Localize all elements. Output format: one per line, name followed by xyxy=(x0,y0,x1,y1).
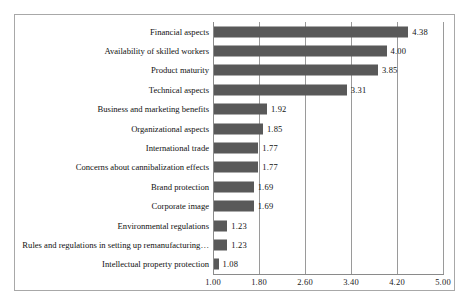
category-label: Environmental regulations xyxy=(118,221,209,231)
category-label: Business and marketing benefits xyxy=(98,104,209,114)
category-label: Corporate image xyxy=(151,201,209,211)
bar-row: International trade1.77 xyxy=(213,138,443,157)
category-label: Technical aspects xyxy=(149,85,209,95)
x-axis-line xyxy=(213,274,444,275)
bar-row: Availability of skilled workers4.00 xyxy=(213,41,443,60)
bar-row: Business and marketing benefits1.92 xyxy=(213,100,443,119)
bar xyxy=(214,84,347,95)
x-tick-label: 3.40 xyxy=(343,277,359,287)
bar-row: Product maturity3.85 xyxy=(213,61,443,80)
x-tick-label: 5.00 xyxy=(435,277,451,287)
plot-area: Financial aspects4.38Availability of ski… xyxy=(213,22,443,274)
x-tick-label: 1.00 xyxy=(205,277,221,287)
category-label: Concerns about cannibalization effects xyxy=(76,162,209,172)
gridline xyxy=(443,22,444,274)
bar-value-label: 4.00 xyxy=(391,46,407,56)
bar-value-label: 1.69 xyxy=(258,201,274,211)
bar-row: Rules and regulations in setting up rema… xyxy=(213,235,443,254)
category-label: Brand protection xyxy=(151,182,209,192)
category-label: Rules and regulations in setting up rema… xyxy=(22,240,209,250)
bar-value-label: 3.31 xyxy=(351,85,367,95)
bar xyxy=(214,201,254,212)
bar-row: Corporate image1.69 xyxy=(213,196,443,215)
x-tick-label: 1.80 xyxy=(251,277,267,287)
category-label: Availability of skilled workers xyxy=(104,46,209,56)
bar xyxy=(214,181,254,192)
category-label: Product maturity xyxy=(151,65,209,75)
bar-value-label: 1.08 xyxy=(223,259,239,269)
bar xyxy=(214,104,267,115)
bar-row: Technical aspects3.31 xyxy=(213,80,443,99)
bar-value-label: 1.69 xyxy=(258,182,274,192)
bar-value-label: 1.23 xyxy=(231,221,247,231)
bar-value-label: 1.92 xyxy=(271,104,287,114)
bar-row: Organizational aspects1.85 xyxy=(213,119,443,138)
category-label: International trade xyxy=(146,143,209,153)
bar xyxy=(214,259,219,270)
bar-row: Environmental regulations1.23 xyxy=(213,216,443,235)
x-tick-label: 4.20 xyxy=(389,277,405,287)
category-label: Organizational aspects xyxy=(131,124,209,134)
bar-value-label: 1.77 xyxy=(262,143,278,153)
bar-row: Concerns about cannibalization effects1.… xyxy=(213,158,443,177)
bar-row: Intellectual property protection1.08 xyxy=(213,255,443,274)
bar-value-label: 1.77 xyxy=(262,162,278,172)
bar-value-label: 1.23 xyxy=(231,240,247,250)
bar xyxy=(214,220,227,231)
bar xyxy=(214,123,263,134)
bar xyxy=(214,46,387,57)
category-label: Intellectual property protection xyxy=(102,259,209,269)
bar xyxy=(214,26,408,37)
bar-row: Brand protection1.69 xyxy=(213,177,443,196)
bar-row: Financial aspects4.38 xyxy=(213,22,443,41)
bar-value-label: 3.85 xyxy=(382,65,398,75)
bar xyxy=(214,142,258,153)
bar-value-label: 4.38 xyxy=(412,27,428,37)
bar xyxy=(214,65,378,76)
x-tick-label: 2.60 xyxy=(297,277,313,287)
chart-container: Financial aspects4.38Availability of ski… xyxy=(14,14,455,291)
bar-value-label: 1.85 xyxy=(267,124,283,134)
bar xyxy=(214,162,258,173)
bar xyxy=(214,239,227,250)
category-label: Financial aspects xyxy=(150,27,209,37)
